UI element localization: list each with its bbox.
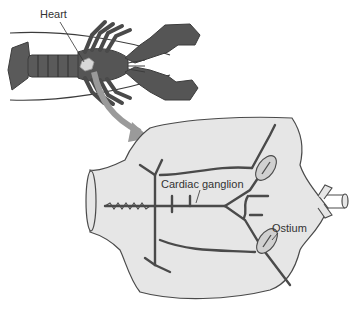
lobster-heart-diagram bbox=[0, 0, 353, 313]
ostium-label: Ostium bbox=[272, 222, 307, 234]
lobster bbox=[8, 22, 200, 104]
cardiac-ganglion-label: Cardiac ganglion bbox=[161, 178, 244, 190]
heart-chamber bbox=[86, 117, 348, 298]
heart-label: Heart bbox=[40, 8, 67, 20]
